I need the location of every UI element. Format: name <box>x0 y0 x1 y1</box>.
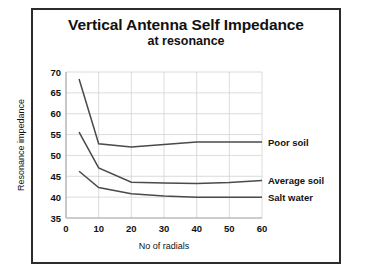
y-tick-label: 35 <box>50 213 61 224</box>
series-line-salt-water <box>79 171 262 197</box>
series-line-poor-soil <box>79 79 262 147</box>
x-tick-label: 40 <box>191 223 202 234</box>
x-tick-label: 60 <box>257 223 268 234</box>
y-axis-title: Resonance impedance <box>16 99 26 191</box>
line-chart: 3540455055606570 0102030405060 Poor soil… <box>0 0 372 279</box>
x-tick-label: 0 <box>63 223 68 234</box>
y-tick-label: 50 <box>50 150 61 161</box>
y-tick-label: 40 <box>50 192 61 203</box>
series-label-poor-soil: Poor soil <box>268 137 309 148</box>
x-tick-label: 20 <box>126 223 137 234</box>
series-paths-group <box>79 79 262 197</box>
x-axis-title: No of radials <box>139 241 190 251</box>
x-tick-label: 30 <box>159 223 170 234</box>
y-tick-label: 60 <box>50 108 61 119</box>
y-tick-label: 55 <box>50 129 61 140</box>
y-tick-labels-group: 3540455055606570 <box>50 67 61 224</box>
x-tick-labels-group: 0102030405060 <box>63 223 267 234</box>
y-tick-label: 70 <box>50 67 61 78</box>
series-labels-group: Poor soilAverage soilSalt water <box>268 137 324 203</box>
y-tick-label: 45 <box>50 171 61 182</box>
x-tick-label: 50 <box>224 223 235 234</box>
series-label-salt-water: Salt water <box>268 192 313 203</box>
series-line-average-soil <box>79 132 262 183</box>
x-tick-label: 10 <box>93 223 104 234</box>
series-label-average-soil: Average soil <box>268 175 324 186</box>
y-tick-label: 65 <box>50 87 61 98</box>
